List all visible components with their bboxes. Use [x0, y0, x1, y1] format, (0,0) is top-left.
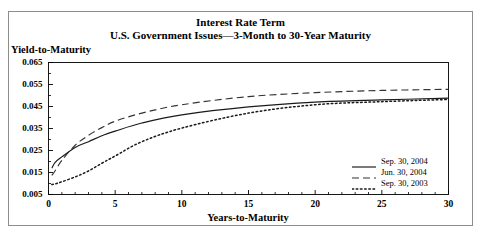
figure-canvas: Interest Rate Term U.S. Government Issue… — [0, 0, 485, 237]
legend-label-1: Jun. 30, 2004 — [381, 168, 427, 177]
legend-label-0: Sep. 30, 2004 — [381, 157, 428, 166]
legend-item-0: Sep. 30, 2004 — [352, 156, 446, 166]
x-tick-label-1: 5 — [103, 199, 127, 209]
legend-swatch-dotted — [352, 179, 376, 187]
y-tick-label-2: 0.025 — [9, 145, 43, 155]
x-tick-label-3: 15 — [237, 199, 261, 209]
x-tick-label-4: 20 — [303, 199, 327, 209]
y-tick-label-3: 0.035 — [9, 123, 43, 133]
x-tick-label-6: 30 — [437, 199, 461, 209]
legend-item-1: Jun. 30, 2004 — [352, 167, 446, 177]
y-tick-label-1: 0.015 — [9, 167, 43, 177]
legend-swatch-dashed — [352, 168, 376, 176]
y-tick-label-5: 0.055 — [9, 79, 43, 89]
y-tick-label-0: 0.005 — [9, 189, 43, 199]
x-tick-label-2: 10 — [170, 199, 194, 209]
chart-legend: Sep. 30, 2004Jun. 30, 2004Sep. 30, 2003 — [352, 154, 446, 191]
x-tick-label-0: 0 — [37, 199, 61, 209]
y-tick-label-4: 0.045 — [9, 101, 43, 111]
x-tick-label-5: 25 — [370, 199, 394, 209]
legend-label-2: Sep. 30, 2003 — [381, 179, 428, 188]
x-axis-label: Years-to-Maturity — [48, 212, 448, 223]
legend-swatch-solid — [352, 157, 376, 165]
y-tick-label-6: 0.065 — [9, 57, 43, 67]
legend-item-2: Sep. 30, 2003 — [352, 178, 446, 188]
